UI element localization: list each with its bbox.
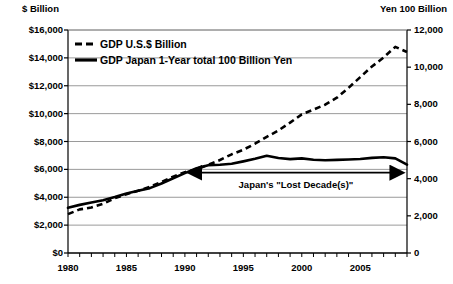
y-axis-tick-label-right: 0 <box>414 248 453 258</box>
y-axis-tick-label-left: $12,000 <box>2 81 63 91</box>
gdp-comparison-chart: $ Billion Yen 100 Billion GDP U.S.$ Bill… <box>0 0 453 284</box>
y-axis-tick-label-left: $0 <box>2 248 63 258</box>
x-axis-tick-label: 1980 <box>43 263 93 273</box>
x-axis-tick-label: 1995 <box>218 263 268 273</box>
x-axis-tick-label: 1985 <box>101 263 151 273</box>
y-axis-tick-label-right: 8,000 <box>414 99 453 109</box>
y-axis-tick-label-left: $4,000 <box>2 192 63 202</box>
x-axis-tick-label: 2000 <box>277 263 327 273</box>
y-axis-tick-label-left: $14,000 <box>2 53 63 63</box>
y-axis-tick-label-right: 10,000 <box>414 62 453 72</box>
legend-label-japan: GDP Japan 1-Year total 100 Billion Yen <box>100 54 292 66</box>
x-axis-tick-label: 2005 <box>335 263 385 273</box>
y-axis-tick-label-right: 4,000 <box>414 174 453 184</box>
y-axis-tick-label-left: $8,000 <box>2 137 63 147</box>
y-axis-tick-label-right: 2,000 <box>414 211 453 221</box>
y-axis-tick-label-right: 12,000 <box>414 25 453 35</box>
y-axis-tick-label-left: $10,000 <box>2 109 63 119</box>
legend-label-us: GDP U.S.$ Billion <box>100 38 187 50</box>
lost-decade-caption: Japan's "Lost Decade(s)" <box>239 179 354 190</box>
y-axis-tick-label-left: $16,000 <box>2 25 63 35</box>
y-axis-tick-label-right: 6,000 <box>414 137 453 147</box>
x-axis-tick-label: 1990 <box>160 263 210 273</box>
plot-area: GDP U.S.$ BillionGDP Japan 1-Year total … <box>0 0 453 284</box>
y-axis-tick-label-left: $6,000 <box>2 164 63 174</box>
y-axis-tick-label-left: $2,000 <box>2 220 63 230</box>
